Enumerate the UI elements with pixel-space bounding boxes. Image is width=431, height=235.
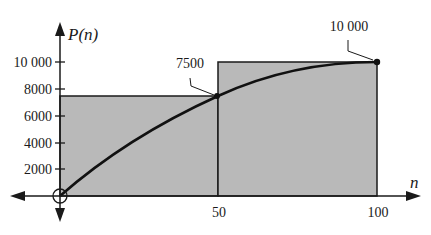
y-tick-label-4000: 4000 bbox=[24, 136, 52, 151]
point-10000 bbox=[374, 59, 380, 65]
annotation-leader-10000 bbox=[348, 40, 373, 60]
rectangle-right bbox=[218, 62, 377, 196]
annotation-leader-7500 bbox=[190, 78, 214, 95]
y-axis-label: P(n) bbox=[67, 25, 99, 44]
y-axis-arrow-up-icon bbox=[55, 22, 65, 36]
x-axis-arrow-right-icon bbox=[406, 191, 421, 201]
x-axis-label: n bbox=[410, 173, 419, 192]
x-axis-arrow-left-icon bbox=[10, 191, 25, 201]
chart: 10 000 8000 6000 4000 2000 50 100 P(n) n… bbox=[0, 0, 431, 235]
y-tick-label-8000: 8000 bbox=[24, 82, 52, 97]
point-7500 bbox=[214, 93, 220, 99]
y-axis-arrow-down-icon bbox=[55, 208, 65, 222]
annotation-10000: 10 000 bbox=[330, 19, 369, 34]
rectangle-left bbox=[60, 96, 218, 196]
x-tick-label-100: 100 bbox=[368, 205, 389, 220]
x-tick-label-50: 50 bbox=[212, 205, 226, 220]
y-tick-label-6000: 6000 bbox=[24, 109, 52, 124]
annotation-7500: 7500 bbox=[176, 56, 204, 71]
y-tick-label-10000: 10 000 bbox=[14, 55, 53, 70]
y-tick-label-2000: 2000 bbox=[24, 162, 52, 177]
